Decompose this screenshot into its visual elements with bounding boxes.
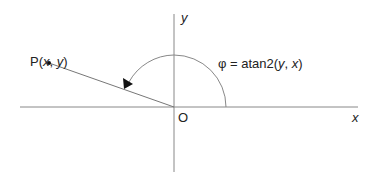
origin-label: O <box>178 110 188 125</box>
point-p-label: P(x, y) <box>30 54 68 69</box>
arrowhead-icon <box>123 78 133 89</box>
angle-arc <box>129 55 226 107</box>
vector-op <box>49 63 174 107</box>
y-axis-label: y <box>180 10 189 25</box>
x-axis-label: x <box>351 110 359 125</box>
atan2-diagram: P(x, y) O x y φ = atan2(y, x) <box>0 0 372 182</box>
angle-label: φ = atan2(y, x) <box>218 56 303 71</box>
